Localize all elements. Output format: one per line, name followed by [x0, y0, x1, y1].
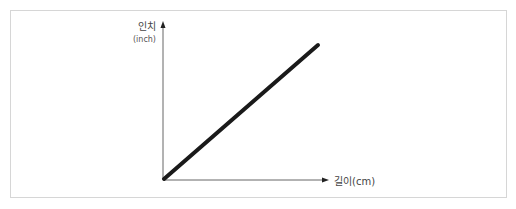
x-axis-label: 길이(cm) — [334, 173, 375, 188]
y-axis-arrow-icon — [161, 21, 166, 28]
data-line — [164, 45, 318, 179]
chart-plot — [0, 0, 516, 209]
x-axis-arrow-icon — [322, 178, 329, 183]
